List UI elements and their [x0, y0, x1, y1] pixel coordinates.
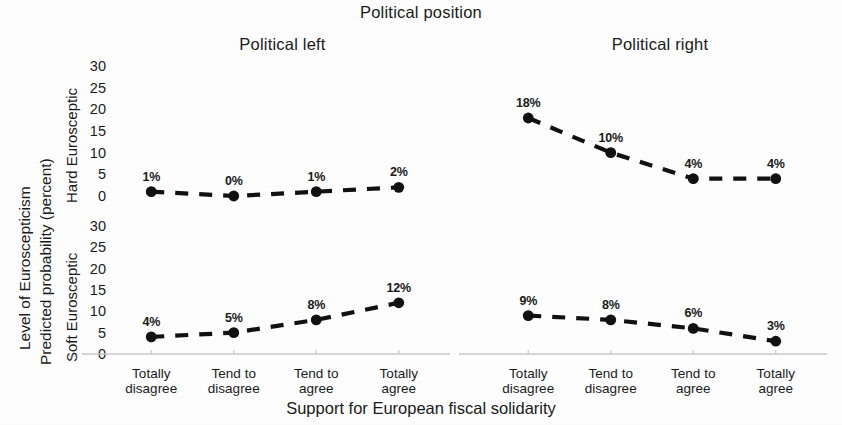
y-tick-5: 5 — [98, 167, 106, 182]
y-tick-10: 10 — [90, 304, 106, 319]
data-point-marker — [523, 310, 534, 321]
data-point-marker — [146, 332, 157, 343]
x-category-label: Tend toagree — [294, 366, 338, 396]
x-category-line-1: Tend to — [294, 366, 338, 381]
data-point-marker — [393, 297, 404, 308]
y-tick-15: 15 — [90, 283, 106, 298]
data-label: 4% — [684, 157, 702, 171]
data-label: 1% — [142, 170, 160, 184]
plot-row-hard-eurosceptic: 302520151050 1%0%1%2% 18%10%4%4% — [0, 58, 842, 208]
x-axis-label: Support for European fiscal solidarity — [0, 399, 842, 418]
x-category-line-1: Tend to — [585, 366, 637, 381]
data-label: 5% — [225, 311, 243, 325]
plot-hard-political-right: 18%10%4%4% — [487, 58, 817, 208]
series-line — [151, 303, 399, 337]
panel-title-political-right: Political right — [480, 35, 840, 54]
data-label: 12% — [387, 281, 411, 295]
plot-row-soft-eurosceptic: 302520151050 4%5%8%12% 9%8%6%3% — [0, 218, 842, 366]
x-category-label: Tend todisagree — [208, 366, 260, 396]
chart-figure: Political position Political left Politi… — [0, 0, 842, 425]
data-label: 4% — [142, 315, 160, 329]
y-tick-labels-soft: 302520151050 — [82, 218, 106, 366]
plot-soft-political-left: 4%5%8%12% — [110, 218, 440, 366]
data-point-marker — [311, 314, 322, 325]
y-tick-5: 5 — [98, 325, 106, 340]
x-category-label: Totallyagree — [380, 366, 418, 396]
data-label: 3% — [767, 319, 785, 333]
series-line — [528, 118, 776, 179]
x-category-label: Totallydisagree — [502, 366, 554, 396]
chart-title: Political position — [0, 3, 842, 22]
y-tick-25: 25 — [90, 240, 106, 255]
data-point-marker — [146, 186, 157, 197]
y-tick-20: 20 — [90, 261, 106, 276]
x-category-line-2: disagree — [502, 381, 554, 396]
plot-soft-political-right: 9%8%6%3% — [487, 218, 817, 366]
data-label: 9% — [519, 294, 537, 308]
data-point-marker — [228, 191, 239, 202]
data-point-marker — [688, 173, 699, 184]
x-category-line-2: disagree — [585, 381, 637, 396]
data-point-marker — [523, 113, 534, 124]
panel-title-political-left: Political left — [105, 35, 460, 54]
y-tick-30: 30 — [90, 219, 106, 234]
x-category-line-2: agree — [671, 381, 715, 396]
x-category-line-1: Totally — [380, 366, 418, 381]
data-label: 0% — [225, 174, 243, 188]
x-category-line-1: Tend to — [208, 366, 260, 381]
y-tick-labels-hard: 302520151050 — [82, 58, 106, 208]
data-label: 18% — [516, 96, 540, 110]
data-label: 6% — [684, 306, 702, 320]
data-label: 8% — [602, 298, 620, 312]
data-label: 1% — [307, 170, 325, 184]
y-tick-25: 25 — [90, 80, 106, 95]
x-category-label: Totallyagree — [757, 366, 795, 396]
x-category-line-2: agree — [757, 381, 795, 396]
x-category-line-1: Totally — [757, 366, 795, 381]
x-category-label: Tend toagree — [671, 366, 715, 396]
x-category-labels-right: TotallydisagreeTend todisagreeTend toagr… — [487, 366, 817, 402]
data-label: 10% — [599, 131, 623, 145]
series-line — [528, 316, 776, 342]
data-point-marker — [770, 173, 781, 184]
data-point-marker — [605, 314, 616, 325]
x-category-line-2: disagree — [125, 381, 177, 396]
y-tick-0: 0 — [98, 189, 106, 204]
x-category-line-2: agree — [294, 381, 338, 396]
data-point-marker — [770, 336, 781, 347]
y-tick-15: 15 — [90, 124, 106, 139]
data-label: 2% — [390, 165, 408, 179]
y-tick-30: 30 — [90, 59, 106, 74]
plot-hard-political-left: 1%0%1%2% — [110, 58, 440, 208]
x-category-line-2: disagree — [208, 381, 260, 396]
x-category-label: Totallydisagree — [125, 366, 177, 396]
data-point-marker — [688, 323, 699, 334]
x-category-line-2: agree — [380, 381, 418, 396]
x-category-line-1: Totally — [502, 366, 554, 381]
x-category-label: Tend todisagree — [585, 366, 637, 396]
series-line — [151, 187, 399, 196]
data-point-marker — [393, 182, 404, 193]
data-label: 4% — [767, 157, 785, 171]
y-tick-10: 10 — [90, 145, 106, 160]
data-point-marker — [311, 186, 322, 197]
x-category-line-1: Totally — [125, 366, 177, 381]
x-category-line-1: Tend to — [671, 366, 715, 381]
y-tick-20: 20 — [90, 102, 106, 117]
data-label: 8% — [307, 298, 325, 312]
data-point-marker — [228, 327, 239, 338]
data-point-marker — [605, 147, 616, 158]
x-category-labels-left: TotallydisagreeTend todisagreeTend toagr… — [110, 366, 440, 402]
